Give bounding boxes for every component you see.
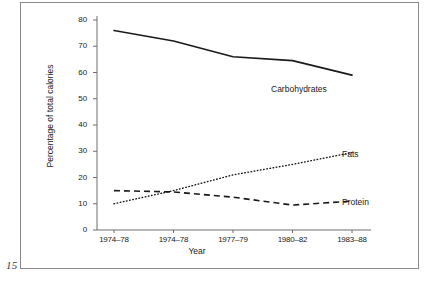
y-axis-tick-label: 0	[63, 225, 87, 234]
series-label-carbohydrates: Carbohydrates	[271, 84, 327, 94]
y-axis-tick-label: 50	[63, 94, 87, 103]
y-axis-title: Percentage of total calories	[45, 46, 55, 186]
series-line-fats	[114, 153, 352, 204]
series-label-fats: Fats	[342, 149, 359, 159]
y-axis-tick-label: 20	[63, 173, 87, 182]
x-axis-tick-label: 1977–79	[204, 235, 262, 244]
line-chart: 01020304050607080 1974–781974–781977–791…	[21, 3, 420, 270]
y-axis-tick-label: 10	[63, 199, 87, 208]
y-axis-ticks	[93, 20, 97, 230]
y-axis-tick-label: 40	[63, 120, 87, 129]
y-axis-tick-label: 70	[63, 41, 87, 50]
page-folio-number: 15	[6, 259, 18, 271]
y-axis-tick-label: 80	[63, 15, 87, 24]
page-canvas: 15 01020304050607080 1974–781974–781977	[0, 0, 426, 281]
series-line-protein	[114, 191, 352, 205]
x-axis-tick-label: 1983–88	[323, 235, 381, 244]
x-axis-tick-label: 1980–82	[264, 235, 322, 244]
y-axis-tick-label: 30	[63, 146, 87, 155]
x-axis-tick-label: 1974–78	[85, 235, 143, 244]
y-axis-tick-label: 60	[63, 68, 87, 77]
series-label-protein: Protein	[342, 197, 369, 207]
figure-frame: 01020304050607080 1974–781974–781977–791…	[20, 2, 419, 269]
x-axis-title: Year	[57, 246, 337, 256]
x-axis-tick-label: 1974–78	[145, 235, 203, 244]
series-line-carbohydrates	[114, 31, 352, 76]
